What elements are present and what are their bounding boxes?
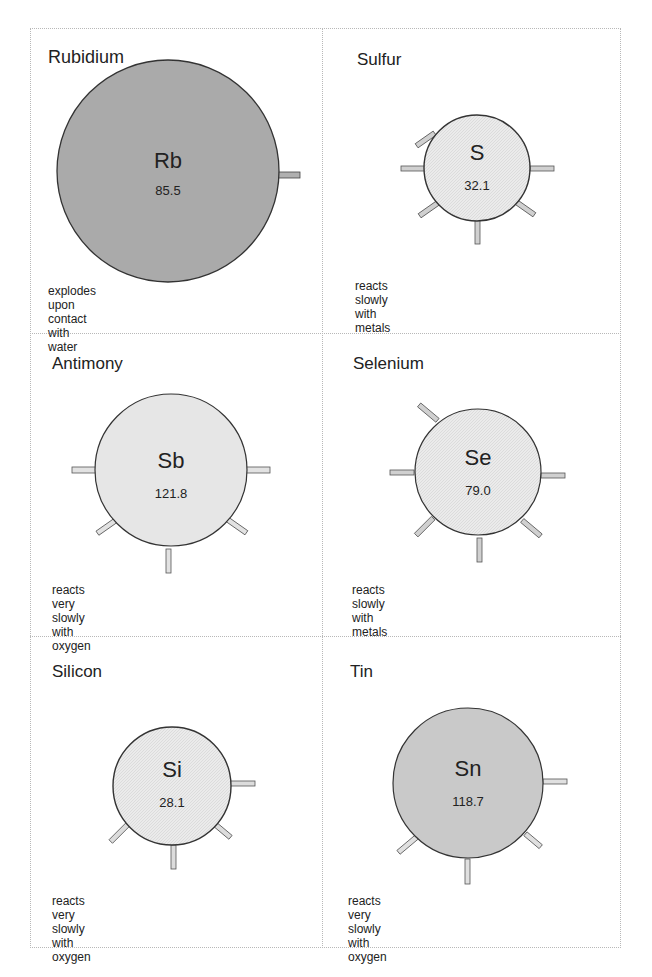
element-name: Sulfur (357, 50, 401, 70)
reactivity-line: with oxygen (52, 625, 91, 653)
atomic-mass: 118.7 (428, 794, 508, 809)
reactivity-line: explodes upon (48, 284, 96, 312)
atomic-mass: 28.1 (132, 795, 212, 810)
element-name: Rubidium (48, 47, 124, 68)
reactivity-line: contact with water (48, 312, 96, 354)
atomic-mass: 121.8 (131, 486, 211, 501)
element-name: Selenium (353, 354, 424, 374)
element-name: Antimony (52, 354, 123, 374)
reactivity-text: reacts slowly with metals (355, 279, 390, 335)
reactivity-line: with oxygen (52, 936, 91, 964)
element-symbol: Si (132, 757, 212, 783)
element-symbol: S (437, 140, 517, 166)
element-symbol: Sn (428, 756, 508, 782)
reactivity-line: reacts very slowly (52, 894, 91, 936)
element-symbol: Rb (128, 148, 208, 174)
reactivity-text: reacts very slowly with oxygen (52, 583, 91, 653)
reactivity-line: with oxygen (348, 936, 387, 964)
reactivity-text: reacts slowly with metals (352, 583, 387, 639)
reactivity-line: reacts slowly (355, 279, 390, 307)
element-symbol: Se (438, 445, 518, 471)
reactivity-line: reacts slowly (352, 583, 387, 611)
element-name: Silicon (52, 662, 102, 682)
reactivity-line: reacts very slowly (348, 894, 387, 936)
atomic-mass: 85.5 (128, 183, 208, 198)
reactivity-text: reacts very slowly with oxygen (348, 894, 387, 964)
reactivity-line: with metals (355, 307, 390, 335)
reactivity-text: explodes upon contact with water (48, 284, 96, 354)
reactivity-text: reacts very slowly with oxygen (52, 894, 91, 964)
reactivity-line: reacts very slowly (52, 583, 91, 625)
atom-diagrams (0, 0, 652, 977)
atomic-mass: 79.0 (438, 483, 518, 498)
atomic-mass: 32.1 (437, 178, 517, 193)
element-name: Tin (350, 662, 373, 682)
reactivity-line: with metals (352, 611, 387, 639)
antimony-atom-icon (72, 394, 270, 573)
element-symbol: Sb (131, 448, 211, 474)
